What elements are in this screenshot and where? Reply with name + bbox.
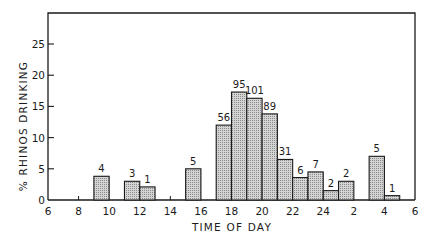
bar-annotation: 89 [263, 101, 276, 112]
bar-annotation: 1 [144, 174, 150, 185]
bar [247, 98, 262, 200]
bar [369, 156, 384, 200]
x-tick-label: 12 [133, 205, 146, 217]
bar-annotation: 1 [389, 183, 395, 194]
y-axis: 0510152025 [32, 38, 54, 206]
y-tick-label: 5 [38, 163, 45, 175]
bar [339, 181, 354, 200]
bar [323, 191, 338, 200]
y-tick-label: 20 [32, 69, 45, 81]
x-tick-label: 6 [412, 205, 419, 217]
bar [277, 159, 292, 200]
bar-annotation: 4 [98, 163, 104, 174]
bar-annotation: 7 [312, 159, 318, 170]
x-tick-label: 22 [286, 205, 299, 217]
bar [140, 187, 155, 200]
bar [262, 114, 277, 200]
x-tick-label: 16 [194, 205, 208, 217]
x-tick-label: 20 [255, 205, 268, 217]
y-axis-label: % RHINOS DRINKING [17, 61, 29, 191]
y-tick-label: 15 [32, 100, 45, 112]
x-tick-label: 18 [225, 205, 238, 217]
histogram-chart: 431556951018931672251 0510152025 6810121… [0, 0, 435, 240]
bar-annotation: 2 [328, 178, 334, 189]
bar-annotation: 5 [190, 156, 196, 167]
bar [216, 125, 231, 200]
bar [124, 181, 139, 200]
y-tick-label: 10 [32, 132, 45, 144]
x-tick-label: 4 [381, 205, 388, 217]
bar-annotation: 56 [217, 112, 230, 123]
bar [186, 169, 201, 200]
x-tick-label: 10 [102, 205, 115, 217]
bar [293, 178, 308, 200]
bar-annotation: 31 [279, 146, 292, 157]
bar [308, 172, 323, 200]
bar-annotation: 3 [129, 168, 135, 179]
x-tick-label: 24 [317, 205, 331, 217]
bar-annotation: 101 [245, 85, 264, 96]
x-axis-label: TIME OF DAY [191, 221, 272, 233]
x-tick-label: 8 [75, 205, 82, 217]
bar [94, 176, 109, 200]
bar-annotation: 95 [233, 79, 246, 90]
x-tick-label: 14 [164, 205, 178, 217]
x-tick-label: 2 [350, 205, 357, 217]
bar-annotation: 2 [343, 168, 349, 179]
bar [384, 196, 399, 200]
y-tick-label: 25 [32, 38, 45, 50]
bar [232, 92, 247, 200]
bar-annotation: 5 [374, 143, 380, 154]
x-tick-label: 6 [45, 205, 52, 217]
bar-annotation: 6 [297, 165, 303, 176]
bars-group: 431556951018931672251 [94, 79, 400, 200]
